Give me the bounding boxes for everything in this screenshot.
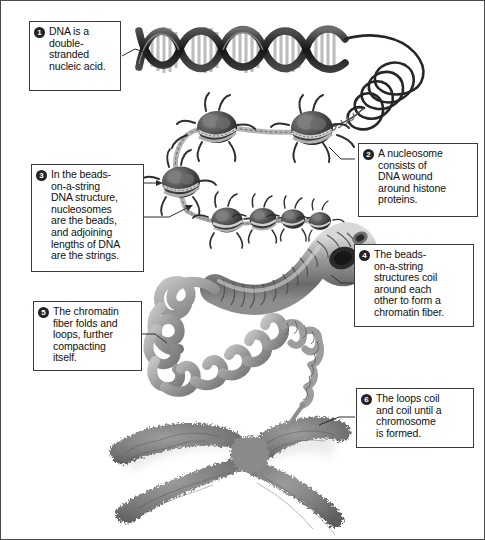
- callout-text: In the beads- on-a-string DNA structure,…: [51, 169, 120, 262]
- dna-double-helix: [139, 27, 345, 73]
- callout-text: The beads- on-a-string structures coil a…: [374, 249, 444, 319]
- callout-text: DNA is a double- stranded nucleic acid.: [49, 26, 105, 72]
- callout-dna-double-stranded[interactable]: 1 DNA is a double- stranded nucleic acid…: [29, 21, 121, 91]
- chromatin-fiber-coil: [215, 229, 370, 308]
- nucleosome-bead: [141, 149, 216, 215]
- callout-beads-on-a-string[interactable]: 3 In the beads- on-a-string DNA structur…: [31, 164, 144, 272]
- callout-number-badge: 6: [361, 394, 372, 405]
- callout-nucleosome[interactable]: 2 A nucleosome consists of DNA wound aro…: [358, 143, 478, 217]
- callout-chromosome-formed[interactable]: 6 The loops coil and coil until a chromo…: [356, 388, 474, 448]
- callout-folds-and-loops[interactable]: 5 The chromatin fiber folds and loops, f…: [33, 301, 142, 371]
- nucleosome-chain: [141, 93, 354, 248]
- callout-text: A nucleosome consists of DNA wound aroun…: [378, 148, 446, 206]
- dna-packaging-figure: 1 DNA is a double- stranded nucleic acid…: [0, 0, 485, 540]
- leader-2: [329, 147, 355, 159]
- callout-number-badge: 1: [34, 27, 45, 38]
- callout-number-badge: 3: [36, 170, 47, 181]
- callout-number-badge: 5: [38, 307, 49, 318]
- callout-number-badge: 4: [359, 250, 370, 261]
- callout-chromatin-fiber[interactable]: 4 The beads- on-a-string structures coil…: [354, 244, 474, 327]
- nucleosome-bead: [271, 95, 354, 162]
- callout-number-badge: 2: [363, 149, 374, 160]
- callout-text: The chromatin fiber folds and loops, fur…: [53, 306, 119, 364]
- chromosome: [110, 405, 351, 535]
- callout-text: The loops coil and coil until a chromoso…: [376, 393, 442, 439]
